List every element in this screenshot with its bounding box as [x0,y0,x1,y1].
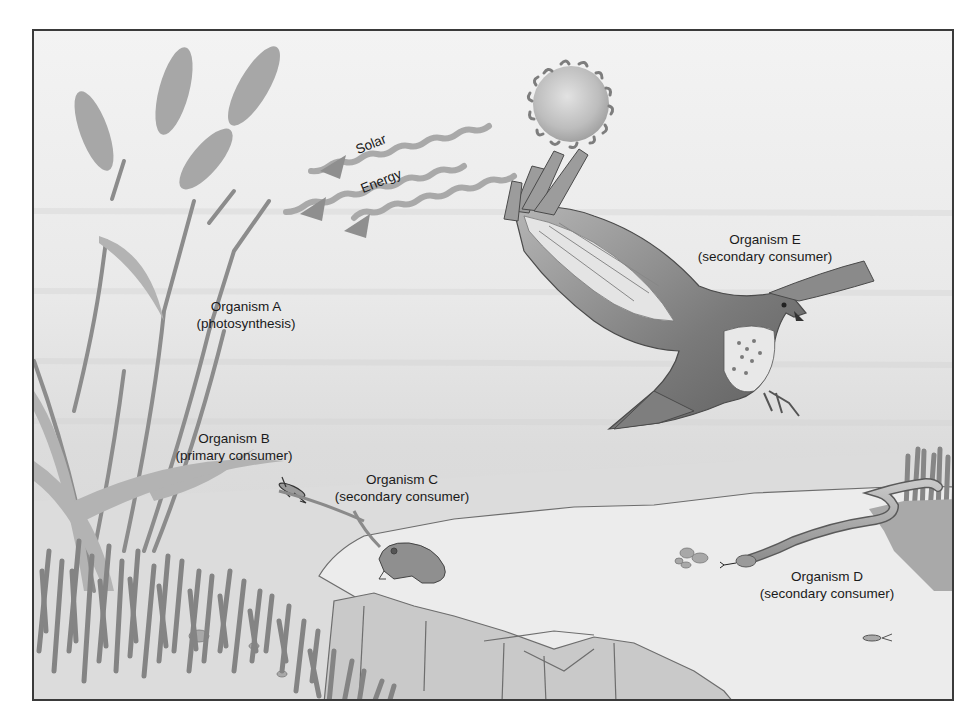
sun-icon [528,61,612,148]
organism-e-name: Organism E [698,231,832,248]
organism-d-name: Organism D [760,568,894,585]
organism-e-label: Organism E (secondary consumer) [698,231,832,265]
organism-b-role: (primary consumer) [175,447,292,464]
organism-e-role: (secondary consumer) [698,248,832,265]
organism-c-name: Organism C [335,471,469,488]
hawk-illustration [504,149,874,429]
organism-b-name: Organism B [175,430,292,447]
grass-seed-heads [66,40,289,198]
organism-b-label: Organism B (primary consumer) [175,430,292,464]
organism-c-role: (secondary consumer) [335,488,469,505]
organism-a-label: Organism A (photosynthesis) [196,298,295,332]
organism-a-name: Organism A [196,298,295,315]
organism-a-role: (photosynthesis) [196,315,295,332]
organism-d-role: (secondary consumer) [760,585,894,602]
diagram-frame: Solar Energy Organism A (photosynthesis)… [32,29,954,701]
organism-d-label: Organism D (secondary consumer) [760,568,894,602]
organism-c-label: Organism C (secondary consumer) [335,471,469,505]
